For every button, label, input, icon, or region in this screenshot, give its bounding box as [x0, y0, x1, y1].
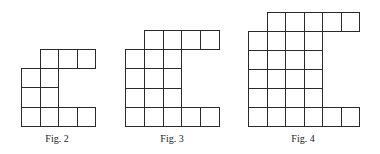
grid-square [40, 107, 60, 127]
grid-square [304, 69, 324, 89]
grid-square [181, 30, 201, 50]
grid-square [125, 49, 145, 69]
grid-square [267, 31, 287, 51]
grid-square [304, 50, 324, 70]
grid-square [163, 88, 183, 108]
grid-square [267, 88, 287, 108]
grid-square [40, 87, 60, 107]
caption-fig-2: Fig. 2 [27, 133, 87, 145]
grid-square [285, 12, 305, 32]
grid-square [125, 107, 145, 127]
grid-square [181, 107, 201, 127]
caption-fig-4: Fig. 4 [273, 133, 333, 145]
grid-square [144, 68, 164, 88]
grid-square [200, 30, 220, 50]
grid-square [285, 31, 305, 51]
grid-square [125, 88, 145, 108]
grid-square [40, 49, 60, 69]
grid-square [248, 31, 268, 51]
grid-square [144, 30, 164, 50]
grid-square [304, 107, 324, 127]
grid-square [163, 49, 183, 69]
grid-square [21, 107, 41, 127]
grid-square [77, 107, 97, 127]
grid-square [304, 12, 324, 32]
grid-square [144, 49, 164, 69]
grid-square [144, 88, 164, 108]
grid-square [163, 107, 183, 127]
grid-square [248, 50, 268, 70]
grid-square [77, 49, 97, 69]
grid-square [248, 69, 268, 89]
grid-square [248, 88, 268, 108]
grid-square [304, 88, 324, 108]
grid-square [285, 107, 305, 127]
grid-square [163, 30, 183, 50]
grid-square [267, 107, 287, 127]
grid-square [21, 87, 41, 107]
grid-square [58, 107, 78, 127]
grid-square [40, 68, 60, 88]
grid-square [248, 107, 268, 127]
grid-square [144, 107, 164, 127]
grid-square [322, 12, 342, 32]
grid-square [21, 68, 41, 88]
caption-fig-3: Fig. 3 [142, 133, 202, 145]
grid-square [125, 68, 145, 88]
grid-square [285, 88, 305, 108]
grid-square [341, 12, 361, 32]
grid-square [285, 50, 305, 70]
grid-square [267, 69, 287, 89]
grid-square [163, 68, 183, 88]
grid-square [304, 31, 324, 51]
grid-square [322, 107, 342, 127]
grid-square [285, 69, 305, 89]
grid-square [341, 107, 361, 127]
grid-square [267, 12, 287, 32]
grid-square [58, 49, 78, 69]
grid-square [267, 50, 287, 70]
grid-square [200, 107, 220, 127]
